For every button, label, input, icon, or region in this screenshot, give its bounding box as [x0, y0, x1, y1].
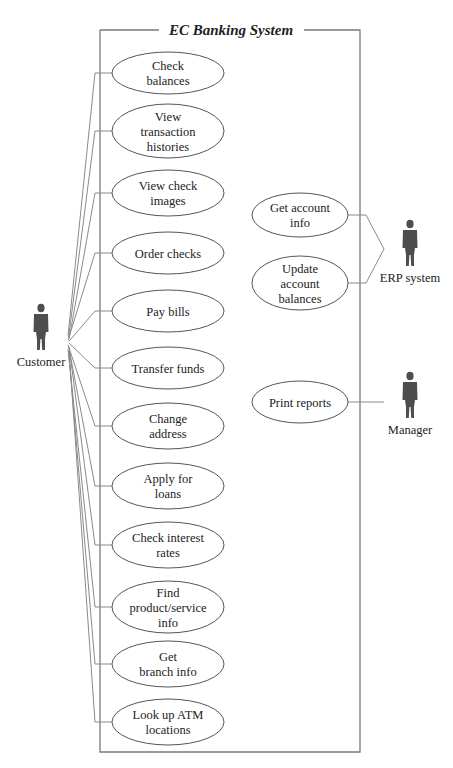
association-line: [348, 215, 384, 249]
actor-customer: Customer: [17, 304, 66, 369]
use-case-ellipse[interactable]: [112, 699, 224, 745]
use-case-label: balances: [278, 292, 321, 306]
use-case-ellipse[interactable]: [112, 463, 224, 509]
use-case-label: Order checks: [135, 247, 201, 261]
use-case-print-reports[interactable]: Print reports: [252, 381, 348, 423]
use-case-order-checks[interactable]: Order checks: [112, 232, 224, 274]
use-case-label: images: [150, 194, 186, 208]
association-line: [68, 253, 112, 340]
actor-erp-system: ERP system: [380, 220, 441, 285]
use-case-label: locations: [145, 723, 190, 737]
use-cases: CheckbalancesViewtransactionhistoriesVie…: [112, 52, 348, 745]
use-case-label: Change: [149, 412, 188, 426]
use-case-ellipse[interactable]: [112, 522, 224, 568]
person-icon: [34, 304, 49, 350]
use-case-label: info: [158, 616, 178, 630]
actor-manager: Manager: [388, 372, 433, 437]
association-line: [348, 249, 384, 283]
use-case-label: branch info: [139, 665, 196, 679]
use-case-label: address: [149, 427, 187, 441]
use-case-label: Update: [282, 262, 319, 276]
use-case-look-up-atm-locations[interactable]: Look up ATMlocations: [112, 699, 224, 745]
use-case-label: Transfer funds: [132, 362, 205, 376]
use-case-view-transaction-histories[interactable]: Viewtransactionhistories: [112, 104, 224, 158]
use-case-ellipse[interactable]: [252, 193, 348, 237]
person-icon: [403, 372, 418, 418]
use-case-label: balances: [146, 74, 189, 88]
use-case-check-balances[interactable]: Checkbalances: [112, 52, 224, 94]
association-line: [68, 73, 112, 336]
use-case-get-account-info[interactable]: Get accountinfo: [252, 193, 348, 237]
use-case-update-account-balances[interactable]: Updateaccountbalances: [252, 256, 348, 310]
use-case-label: rates: [156, 546, 180, 560]
actor-label: Manager: [388, 423, 433, 437]
use-case-label: Pay bills: [146, 305, 190, 319]
use-case-change-address[interactable]: Changeaddress: [112, 403, 224, 449]
use-case-label: Check: [152, 59, 185, 73]
use-case-label: transaction: [141, 125, 197, 139]
use-case-pay-bills[interactable]: Pay bills: [112, 290, 224, 332]
person-icon: [403, 220, 418, 266]
system-title: EC Banking System: [168, 22, 293, 38]
association-line: [69, 352, 112, 722]
use-case-ellipse[interactable]: [112, 403, 224, 449]
use-case-label: product/service: [129, 601, 207, 615]
use-case-label: Get: [159, 650, 178, 664]
actor-label: ERP system: [380, 271, 441, 285]
use-case-label: Look up ATM: [133, 708, 204, 722]
use-case-label: loans: [155, 487, 182, 501]
use-case-label: account: [281, 277, 320, 291]
use-case-label: View check: [139, 179, 198, 193]
use-case-label: View: [155, 110, 181, 124]
use-case-label: histories: [147, 140, 189, 154]
actor-label: Customer: [17, 355, 66, 369]
use-case-label: Get account: [270, 201, 331, 215]
use-case-label: Apply for: [144, 472, 194, 486]
use-case-label: Check interest: [132, 531, 204, 545]
association-line: [69, 343, 112, 368]
use-case-label: Print reports: [269, 396, 331, 410]
use-case-transfer-funds[interactable]: Transfer funds: [112, 347, 224, 389]
use-case-diagram: EC Banking System CheckbalancesViewtrans…: [0, 0, 453, 768]
use-case-label: Find: [157, 586, 181, 600]
use-case-get-branch-info[interactable]: Getbranch info: [112, 641, 224, 687]
use-case-ellipse[interactable]: [112, 641, 224, 687]
use-case-view-check-images[interactable]: View checkimages: [112, 170, 224, 216]
use-case-ellipse[interactable]: [112, 170, 224, 216]
use-case-label: info: [290, 216, 310, 230]
use-case-find-product-service-info[interactable]: Findproduct/serviceinfo: [112, 581, 224, 633]
use-case-apply-for-loans[interactable]: Apply forloans: [112, 463, 224, 509]
use-case-check-interest-rates[interactable]: Check interestrates: [112, 522, 224, 568]
